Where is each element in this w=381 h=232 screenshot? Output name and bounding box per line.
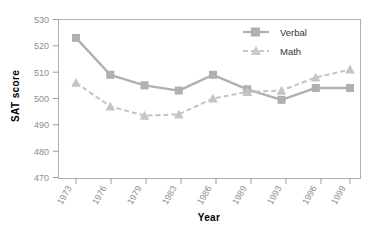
x-tick-label: 1983: [160, 184, 179, 206]
data-point-math-1993: [277, 86, 287, 95]
legend-label-verbal: Verbal: [280, 27, 307, 38]
legend-entry-verbal: Verbal: [243, 27, 307, 38]
y-tick-label: 480: [34, 147, 49, 157]
data-point-verbal-1996: [312, 84, 320, 92]
x-tick-label: 1993: [265, 184, 284, 206]
series-line-verbal: [76, 38, 350, 100]
data-point-verbal-1973: [72, 34, 80, 42]
x-axis-tick-labels: 1973 1976 1979 1983 1986 1989 1993 1996 …: [55, 184, 348, 206]
x-tick-label: 1986: [195, 184, 214, 206]
data-point-verbal-1983: [175, 87, 183, 95]
y-axis-tick-labels: 530 520 510 500 490 480 470: [34, 15, 49, 183]
data-point-verbal-1979: [141, 81, 149, 89]
legend: Verbal Math: [243, 27, 307, 57]
data-series-layer: [71, 34, 355, 120]
x-tick-label: 1999: [329, 184, 348, 206]
x-tick-label: 1996: [300, 184, 319, 206]
x-tick-label: 1976: [90, 184, 109, 206]
legend-marker-square-icon: [251, 28, 260, 37]
legend-entry-math: Math: [243, 46, 301, 57]
y-tick-label: 530: [34, 15, 49, 25]
data-point-math-1973: [71, 78, 81, 87]
x-tick-label: 1973: [55, 184, 74, 206]
sat-score-line-chart: 530 520 510 500 490 480 470 SAT score 19…: [0, 0, 381, 232]
data-point-verbal-1976: [106, 71, 114, 79]
y-tick-label: 490: [34, 120, 49, 130]
legend-label-math: Math: [280, 46, 301, 57]
plot-frame: [59, 20, 361, 179]
x-axis-ticks: [76, 179, 350, 185]
x-axis-title: Year: [198, 212, 221, 223]
chart-canvas: 530 520 510 500 490 480 470 SAT score 19…: [0, 0, 381, 232]
y-tick-label: 520: [34, 41, 49, 51]
data-point-verbal-1986: [209, 71, 217, 79]
data-point-math-1999: [345, 65, 355, 74]
y-tick-label: 470: [34, 173, 49, 183]
y-axis-ticks: [53, 20, 59, 178]
y-axis-title: SAT score: [10, 70, 21, 122]
series-verbal: [72, 34, 354, 104]
data-point-verbal-1999: [346, 84, 354, 92]
x-tick-label: 1989: [230, 184, 249, 206]
y-tick-label: 510: [34, 68, 49, 78]
x-tick-label: 1979: [125, 184, 144, 206]
data-point-verbal-1993: [278, 96, 286, 104]
y-tick-label: 500: [34, 94, 49, 104]
